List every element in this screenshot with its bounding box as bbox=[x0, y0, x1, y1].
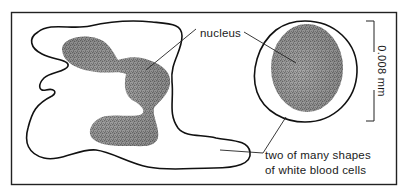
scale-bar: 0.008 mm bbox=[366, 21, 388, 121]
nucleus-label: nucleus bbox=[200, 27, 241, 39]
scale-bar-top bbox=[366, 21, 374, 52]
amoeboid-cell bbox=[27, 21, 251, 169]
leader-lines bbox=[146, 29, 296, 153]
round-cell bbox=[254, 21, 357, 122]
nucleus-leader-left bbox=[146, 29, 196, 70]
caption-leader bbox=[220, 117, 286, 153]
white-blood-cells-figure: nucleus two of many shapes of white bloo… bbox=[0, 0, 405, 192]
caption-line-1: two of many shapes bbox=[265, 149, 371, 161]
diagram-canvas: nucleus two of many shapes of white bloo… bbox=[0, 0, 405, 192]
scale-bar-label: 0.008 mm bbox=[376, 45, 388, 96]
caption-line-2: of white blood cells bbox=[265, 164, 366, 176]
scale-bar-bottom bbox=[366, 90, 374, 121]
